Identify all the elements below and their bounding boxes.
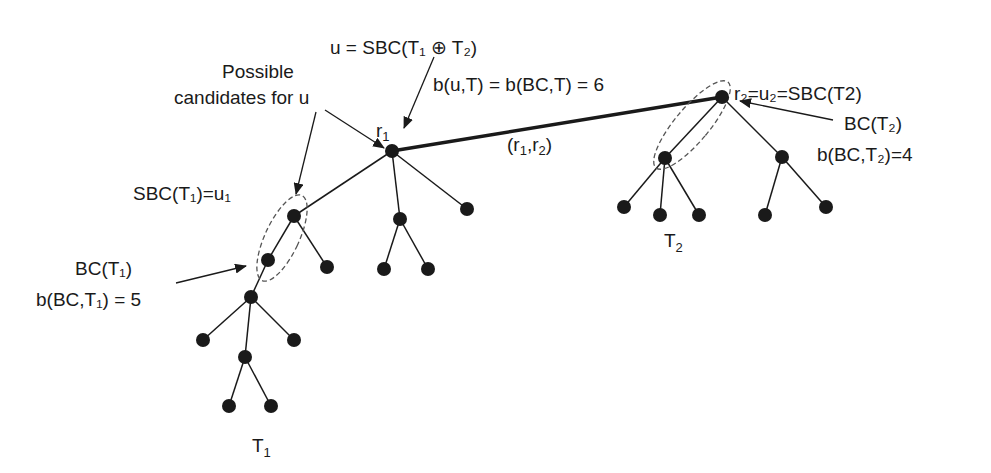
node bbox=[196, 333, 210, 347]
node bbox=[658, 151, 672, 165]
node-r1 bbox=[385, 144, 399, 158]
node bbox=[819, 200, 833, 214]
candidate-ellipse-t1 bbox=[247, 188, 318, 288]
label-u-definition: u = SBC(T₁ ⊕ T₂) bbox=[330, 37, 477, 58]
t1-edges bbox=[203, 151, 467, 406]
node bbox=[758, 208, 772, 222]
node bbox=[377, 262, 391, 276]
edge-r1-r2 bbox=[392, 97, 722, 151]
label-bc-t2: BC(T₂) bbox=[844, 113, 902, 134]
node bbox=[238, 350, 252, 364]
node-bc-t1 bbox=[261, 253, 275, 267]
node bbox=[692, 208, 706, 222]
label-possible: Possible bbox=[222, 61, 294, 82]
label-bc-t1: BC(T₁) bbox=[75, 258, 132, 279]
node bbox=[320, 260, 334, 274]
node-r2 bbox=[715, 90, 729, 104]
label-b-bc-t1: b(BC,T₁) = 5 bbox=[36, 289, 141, 310]
node-u1 bbox=[287, 209, 301, 223]
node bbox=[653, 208, 667, 222]
t1-nodes bbox=[196, 144, 474, 413]
node bbox=[617, 200, 631, 214]
label-t1: T1 bbox=[252, 435, 271, 460]
label-t2: T2 bbox=[664, 230, 683, 255]
node bbox=[222, 399, 236, 413]
label-b-bc-t2: b(BC,T₂)=4 bbox=[817, 144, 913, 165]
node bbox=[287, 333, 301, 347]
node bbox=[775, 150, 789, 164]
label-candidates-for-u: candidates for u bbox=[174, 87, 309, 108]
tree-merge-diagram: u = SBC(T₁ ⊕ T₂) Possible candidates for… bbox=[0, 0, 991, 473]
label-r2-definition: r₂=u₂=SBC(T2) bbox=[734, 83, 862, 104]
label-sbc-t1: SBC(T₁)=u₁ bbox=[133, 183, 231, 204]
node bbox=[244, 290, 258, 304]
label-edge-r1-r2: (r1,r2) bbox=[507, 134, 552, 158]
node bbox=[393, 212, 407, 226]
label-b-u-t: b(u,T) = b(BC,T) = 6 bbox=[433, 74, 604, 95]
node bbox=[460, 202, 474, 216]
candidate-ellipse-t2 bbox=[643, 71, 741, 179]
node bbox=[421, 262, 435, 276]
node bbox=[264, 399, 278, 413]
label-r1: r1 bbox=[376, 120, 390, 144]
